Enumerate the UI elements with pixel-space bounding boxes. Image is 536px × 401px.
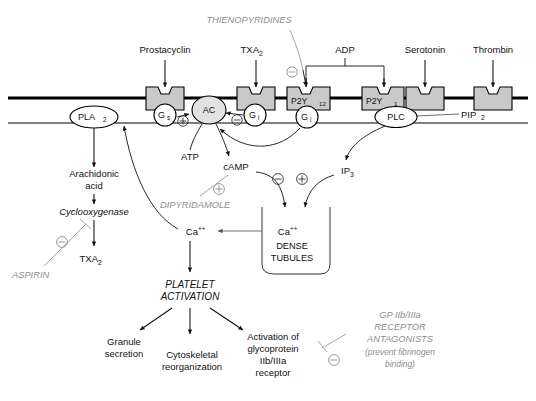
diagram-canvas: THIENOPYRIDINES Prostacyclin TXA 2 ADP S… [0,0,536,401]
agonist-label-prostacyclin: Prostacyclin [139,44,190,55]
gpiibiiia-line1: Activation of [247,331,299,342]
agonist-label-adp: ADP [335,44,355,55]
arachidonic-acid-line2: acid [85,180,102,191]
gp-antagonists-line2: RECEPTOR [374,322,426,332]
g-protein-gs-sub: s [167,114,170,121]
svg-text:2: 2 [98,259,102,266]
svg-text:++: ++ [290,225,298,232]
atp-label: ATP [181,151,199,162]
drug-aspirin-label: ASPIRIN [11,270,49,280]
g-protein-gi-txa2-label: G [249,110,256,120]
gp-antagonists-line3: ANTAGONISTS [366,334,434,344]
dense-tubules-line2: TUBULES [271,253,313,263]
svg-text:++: ++ [198,225,206,232]
pip2-label: PIP [461,109,476,120]
svg-text:IP: IP [341,165,350,176]
cyclooxygenase-label: Cyclooxygenase [59,206,129,217]
outcome-cytoskeletal-reorganization: Cytoskeletal reorganization [162,349,222,372]
pip2-sub: 2 [481,114,485,121]
svg-text:TXA: TXA [80,253,99,264]
g-protein-gs-label: G [158,110,165,120]
enzyme-pla2-label: PLA [78,112,95,122]
gpiibiiia-line3: IIb/IIIa [260,355,287,366]
svg-text:Ca: Ca [278,226,291,237]
granule-secretion-line1: Granule [107,336,141,347]
svg-text:3: 3 [350,171,354,178]
svg-text:Ca: Ca [186,226,199,237]
platelet-activation-line1: PLATELET [165,279,215,290]
g-protein-gi-txa2-sub: i [258,114,259,121]
arachidonic-acid-line1: Arachidonic [69,168,119,179]
svg-text:TXA: TXA [241,44,260,55]
platelet-activation-line2: ACTIVATION [160,291,220,302]
granule-secretion-line2: secretion [105,348,144,359]
enzyme-pla2-sub: 2 [103,116,107,123]
gpiibiiia-line2: glycoprotein [247,343,298,354]
gp-antagonists-line1: GP IIb/IIIa [379,310,421,320]
camp-label: cAMP [223,161,248,172]
outcome-granule-secretion: Granule secretion [105,336,144,359]
drug-thienopyridines-label: THIENOPYRIDINES [206,15,292,25]
gp-antagonists-line4: (prevent fibrinogen [365,347,435,357]
drug-dipyridamole-label: DIPYRIDAMOLE [160,200,231,210]
svg-text:2: 2 [259,50,263,57]
svg-text:P2Y: P2Y [366,96,383,106]
platelet-activation-diagram: THIENOPYRIDINES Prostacyclin TXA 2 ADP S… [0,0,536,401]
dense-tubules-line1: DENSE [276,241,308,251]
agonist-label-thrombin: Thrombin [473,44,513,55]
g-protein-gi-p2y12-label: G [301,112,308,122]
platelet-activation: PLATELET ACTIVATION [160,279,220,302]
g-protein-gi-p2y12-sub: i [310,116,311,123]
agonist-label-serotonin: Serotonin [405,44,446,55]
cytoskeletal-line2: reorganization [162,361,222,372]
cytoskeletal-line1: Cytoskeletal [166,349,218,360]
enzyme-ac-label: AC [203,105,216,115]
enzyme-plc-label: PLC [387,112,405,122]
svg-text:P2Y: P2Y [291,96,308,106]
gp-antagonists-line5: binding) [385,359,415,369]
gpiibiiia-line4: receptor [256,367,291,378]
svg-text:12: 12 [319,100,326,107]
